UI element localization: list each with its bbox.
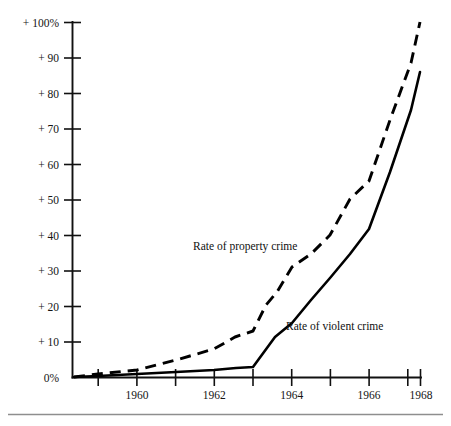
y-tick-label-90: + 90 — [38, 52, 59, 64]
x-tick-label-1968: 1968 — [410, 389, 433, 401]
crime-rate-chart-figure: + 100% + 90 + 80 + 70 + 60 + 50 + 40 + 3… — [0, 0, 451, 426]
y-tick-label-10: + 10 — [38, 336, 59, 348]
series-label-violent-crime: Rate of violent crime — [286, 320, 383, 332]
y-tick-label-80: + 80 — [38, 88, 59, 100]
y-tick-label-100: + 100% — [23, 17, 60, 29]
x-tick-label-1960: 1960 — [125, 389, 148, 401]
x-tick-label-1966: 1966 — [358, 389, 381, 401]
y-axis-tick-labels: + 100% + 90 + 80 + 70 + 60 + 50 + 40 + 3… — [23, 17, 60, 384]
x-tick-label-1964: 1964 — [280, 389, 303, 401]
y-tick-label-30: + 30 — [38, 265, 59, 277]
series-label-property-crime: Rate of property crime — [193, 240, 297, 253]
y-tick-label-60: + 60 — [38, 159, 59, 171]
x-axis-tick-labels: 1960 1962 1964 1966 1968 — [125, 389, 432, 401]
y-tick-label-0: 0% — [44, 372, 60, 384]
chart-canvas: + 100% + 90 + 80 + 70 + 60 + 50 + 40 + 3… — [0, 0, 451, 426]
y-tick-label-40: + 40 — [38, 230, 59, 242]
y-tick-label-20: + 20 — [38, 301, 59, 313]
y-tick-label-50: + 50 — [38, 194, 59, 206]
x-tick-label-1962: 1962 — [203, 389, 226, 401]
y-tick-label-70: + 70 — [38, 123, 59, 135]
